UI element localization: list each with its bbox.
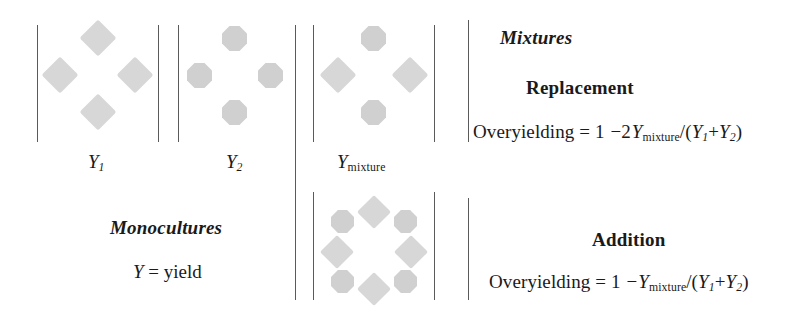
plant-octagon xyxy=(222,100,247,125)
rule-text-divider-bottom xyxy=(468,198,469,300)
yield-definition: Y = yield xyxy=(133,262,202,281)
panel-label-y-mixture: Ymixture xyxy=(337,152,386,174)
plant-octagon xyxy=(331,210,354,233)
plant-diamond xyxy=(80,20,117,57)
yield-definition-rest: = yield xyxy=(144,261,202,282)
rule-addition-right xyxy=(434,192,435,300)
yield-definition-var: Y xyxy=(133,261,144,282)
plant-octagon xyxy=(187,63,212,88)
replacement-formula: Overyielding = 1 −2Ymixture/(Y1+Y2) xyxy=(473,122,742,144)
monocultures-heading: Monocultures xyxy=(110,218,222,237)
addition-formula-minus: − xyxy=(625,271,638,292)
rule-y2-left xyxy=(178,25,179,142)
plant-diamond xyxy=(117,57,154,94)
addition-heading: Addition xyxy=(592,230,665,249)
plant-octagon xyxy=(394,210,417,233)
panel-label-y-mixture-sub: mixture xyxy=(348,161,386,174)
plant-octagon xyxy=(361,26,386,51)
figure-canvas: Y1 Y2 Ymixture Monocultures Y = yield Mi… xyxy=(0,0,812,312)
addition-formula-var: Y xyxy=(638,271,649,292)
panel-label-y-mixture-var: Y xyxy=(337,151,348,172)
rule-text-divider xyxy=(468,20,469,142)
addition-formula-close: ) xyxy=(742,271,748,292)
replacement-heading: Replacement xyxy=(526,78,634,97)
plant-diamond xyxy=(80,94,117,131)
rule-addition-left xyxy=(313,192,314,300)
plant-octagon xyxy=(258,63,283,88)
plant-diamond xyxy=(392,57,429,94)
panel-label-y2: Y2 xyxy=(226,152,243,174)
addition-formula-denom-open: /( xyxy=(686,271,698,292)
plant-diamond xyxy=(320,57,357,94)
plant-octagon xyxy=(394,270,417,293)
replacement-formula-minus: −2 xyxy=(609,121,631,142)
rule-mixture-left xyxy=(313,25,314,142)
addition-formula-sub: mixture xyxy=(649,281,686,294)
replacement-formula-lhs: Overyielding = 1 xyxy=(473,121,609,142)
panel-label-y2-sub: 2 xyxy=(237,161,243,174)
rule-y1-left xyxy=(37,25,38,142)
panel-label-y1-sub: 1 xyxy=(99,161,105,174)
panel-label-y2-var: Y xyxy=(226,151,237,172)
replacement-formula-plus: + xyxy=(708,121,719,142)
panel-label-y1-var: Y xyxy=(88,151,99,172)
panel-label-y1: Y1 xyxy=(88,152,105,174)
mixtures-heading: Mixtures xyxy=(500,28,572,47)
plant-diamond xyxy=(357,195,391,229)
plant-diamond xyxy=(320,235,354,269)
plant-octagon xyxy=(331,270,354,293)
replacement-formula-denom-open: /( xyxy=(680,121,692,142)
rule-y2-right xyxy=(295,25,296,300)
plant-diamond xyxy=(394,235,428,269)
plant-octagon xyxy=(361,100,386,125)
replacement-formula-var: Y xyxy=(632,121,643,142)
replacement-formula-y1: Y xyxy=(692,121,703,142)
rule-mixture-right xyxy=(434,25,435,142)
addition-formula-plus: + xyxy=(715,271,726,292)
replacement-formula-close: ) xyxy=(736,121,742,142)
addition-formula-y1: Y xyxy=(698,271,709,292)
addition-formula-lhs: Overyielding = 1 xyxy=(489,271,625,292)
plant-diamond xyxy=(42,57,79,94)
replacement-formula-sub: mixture xyxy=(643,131,680,144)
addition-formula: Overyielding = 1 −Ymixture/(Y1+Y2) xyxy=(489,272,749,294)
addition-formula-y2: Y xyxy=(726,271,737,292)
replacement-formula-y2: Y xyxy=(719,121,730,142)
plant-diamond xyxy=(357,272,391,306)
plant-octagon xyxy=(222,26,247,51)
rule-y1-right xyxy=(158,25,159,142)
